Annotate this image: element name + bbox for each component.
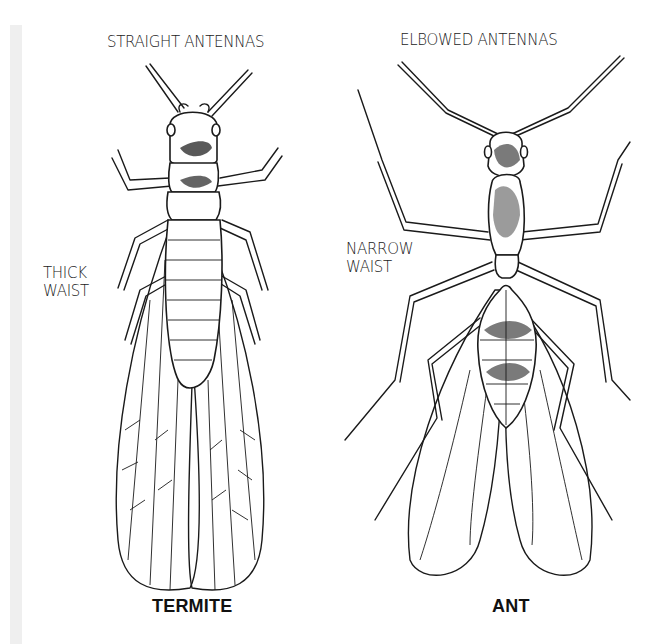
ant-illustration [345, 56, 630, 575]
ant-caption: ANT [492, 596, 530, 617]
insect-illustrations [0, 0, 669, 644]
ant-petiole [495, 255, 518, 278]
termite-abdomen [165, 220, 222, 388]
termite-illustration [112, 64, 282, 590]
termite-caption: TERMITE [152, 596, 232, 617]
ant-gaster [478, 286, 536, 429]
termite-head [170, 112, 217, 166]
termite-thorax [167, 192, 221, 220]
